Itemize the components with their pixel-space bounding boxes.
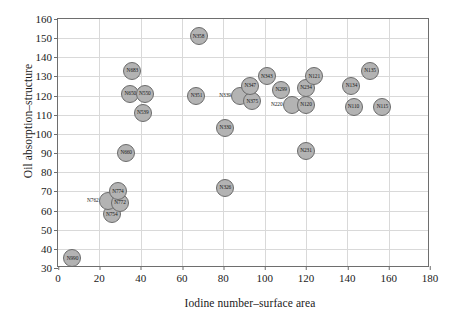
y-tick-label: 150 xyxy=(18,32,58,44)
data-point: N330 xyxy=(216,119,234,137)
data-point: N115 xyxy=(373,98,391,116)
data-point: N110 xyxy=(345,98,363,116)
data-point-label: N660 xyxy=(120,150,132,155)
y-tick-label: 40 xyxy=(18,243,58,255)
data-point-label: N774 xyxy=(112,189,124,194)
data-point-label: N343 xyxy=(261,74,273,79)
gridline-horizontal xyxy=(58,230,428,231)
data-point-label: N650 xyxy=(125,91,137,96)
gridline-horizontal xyxy=(58,57,428,58)
data-point: N347 xyxy=(241,77,259,95)
gridline-horizontal xyxy=(58,153,428,154)
data-point-label: N358 xyxy=(193,34,205,39)
y-tick-label: 120 xyxy=(18,90,58,102)
y-tick-label: 160 xyxy=(18,13,58,25)
x-tick-label: 160 xyxy=(380,266,397,284)
y-tick-label: 70 xyxy=(18,185,58,197)
y-tick-label: 80 xyxy=(18,166,58,178)
data-point-label: N375 xyxy=(246,99,258,104)
data-point-label: N134 xyxy=(346,83,358,88)
data-point: N774 xyxy=(109,182,127,200)
data-point: N326 xyxy=(216,179,234,197)
plot-area: 30405060708090100110120130140150160 0204… xyxy=(57,18,429,267)
y-tick-label: 110 xyxy=(18,109,58,121)
data-point-label: N234 xyxy=(300,85,312,90)
data-point-label: N299 xyxy=(275,87,287,92)
y-tick-label: 100 xyxy=(18,128,58,140)
x-tick-label: 120 xyxy=(298,266,315,284)
data-point: N231 xyxy=(297,142,315,160)
data-point-label: N135 xyxy=(364,68,376,73)
data-point-label: N683 xyxy=(127,68,139,73)
data-point-label: N772 xyxy=(114,200,126,205)
data-point: N120 xyxy=(297,96,315,114)
data-point: N358 xyxy=(190,27,208,45)
y-tick-label: 30 xyxy=(18,262,58,274)
y-tick-label: 130 xyxy=(18,70,58,82)
data-point-label: N110 xyxy=(348,104,359,109)
data-point: N351 xyxy=(187,87,205,105)
data-point: N550 xyxy=(136,85,154,103)
data-point: N343 xyxy=(258,67,276,85)
data-point: N135 xyxy=(361,62,379,80)
data-point: N375 xyxy=(243,92,261,110)
gridline-horizontal xyxy=(58,134,428,135)
y-tick-label: 90 xyxy=(18,147,58,159)
data-point: N660 xyxy=(117,144,135,162)
data-point-label: N347 xyxy=(244,83,256,88)
gridline-horizontal xyxy=(58,172,428,173)
x-tick-label: 100 xyxy=(256,266,273,284)
data-point: N990 xyxy=(63,249,81,267)
data-point-label: N330 xyxy=(220,125,232,130)
data-point-label: N121 xyxy=(308,74,320,79)
scatter-chart: Oil absorption–structure Iodine number–s… xyxy=(0,0,461,327)
data-point-label: N351 xyxy=(191,93,203,98)
x-tick-label: 180 xyxy=(422,266,439,284)
data-point-label: N539 xyxy=(137,110,149,115)
data-point-label: N326 xyxy=(220,185,232,190)
data-point-label: N231 xyxy=(300,148,312,153)
data-point: N539 xyxy=(134,104,152,122)
y-tick-label: 50 xyxy=(18,224,58,236)
gridline-horizontal xyxy=(58,38,428,39)
x-tick-label: 20 xyxy=(94,266,105,284)
data-point-label: N115 xyxy=(377,104,388,109)
data-point-label: N550 xyxy=(139,91,151,96)
x-tick-label: 60 xyxy=(177,266,188,284)
x-tick-label: 40 xyxy=(135,266,146,284)
data-point-label: N762 xyxy=(87,198,99,203)
data-point-label: N754 xyxy=(106,212,118,217)
data-point-label: N990 xyxy=(67,256,79,261)
x-axis-title: Iodine number–surface area xyxy=(60,297,440,309)
data-point: N134 xyxy=(342,77,360,95)
data-point: N121 xyxy=(305,67,323,85)
data-point: N683 xyxy=(123,62,141,80)
gridline-horizontal xyxy=(58,115,428,116)
x-tick-label: 0 xyxy=(55,266,61,284)
x-tick-label: 140 xyxy=(339,266,356,284)
data-point-label: N120 xyxy=(300,102,312,107)
gridline-horizontal xyxy=(58,249,428,250)
x-tick-label: 80 xyxy=(218,266,229,284)
y-tick-label: 140 xyxy=(18,51,58,63)
data-point-label: N220 xyxy=(271,102,283,107)
y-tick-label: 60 xyxy=(18,205,58,217)
